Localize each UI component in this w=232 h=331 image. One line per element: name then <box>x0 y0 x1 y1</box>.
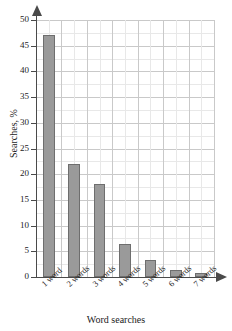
y-axis-tick-label: 35 <box>20 92 29 101</box>
y-axis-tick <box>31 226 37 227</box>
grid-line-vertical <box>112 20 113 277</box>
y-axis-tick <box>31 71 37 72</box>
y-axis-line <box>36 14 37 278</box>
y-axis-tick <box>31 200 37 201</box>
y-axis-tick-label: 30 <box>20 118 29 127</box>
y-axis-tick-label: 15 <box>20 195 29 204</box>
y-axis-tick-label: 25 <box>20 144 29 153</box>
grid-line-vertical-minor <box>201 20 202 277</box>
y-axis-title: Searches, % <box>8 89 19 179</box>
bar <box>68 164 80 277</box>
grid-line-vertical <box>61 20 62 277</box>
grid-line-vertical <box>163 20 164 277</box>
y-axis-tick <box>31 46 37 47</box>
plot-area <box>36 20 214 277</box>
y-axis-tick <box>31 174 37 175</box>
grid-line-vertical <box>189 20 190 277</box>
x-axis-arrow-icon <box>216 272 227 282</box>
grid-line-vertical-minor <box>150 20 151 277</box>
y-axis-tick-label: 10 <box>20 221 29 230</box>
x-axis-title: Word searches <box>0 314 232 325</box>
grid-line-vertical <box>87 20 88 277</box>
y-axis-tick-label: 0 <box>25 272 30 281</box>
y-axis-tick <box>31 20 37 21</box>
y-axis-tick <box>31 251 37 252</box>
y-axis-tick-label: 40 <box>20 66 29 75</box>
y-axis-tick-label: 50 <box>20 15 29 24</box>
bar <box>43 35 55 277</box>
y-axis-arrow-icon <box>32 5 42 16</box>
grid-line-vertical-minor <box>176 20 177 277</box>
y-axis-tick-label: 20 <box>20 169 29 178</box>
grid-line-vertical-minor <box>125 20 126 277</box>
y-axis-tick <box>31 149 37 150</box>
bar-chart-figure: 05101520253035404550 1 word2 words3 word… <box>0 0 232 331</box>
y-axis-tick-label: 45 <box>20 41 29 50</box>
grid-line-vertical <box>138 20 139 277</box>
grid-line-vertical <box>214 20 215 277</box>
y-axis-tick-label: 5 <box>25 246 30 255</box>
bar <box>94 184 106 277</box>
y-axis-tick <box>31 123 37 124</box>
y-axis-tick <box>31 277 37 278</box>
y-axis-tick <box>31 97 37 98</box>
